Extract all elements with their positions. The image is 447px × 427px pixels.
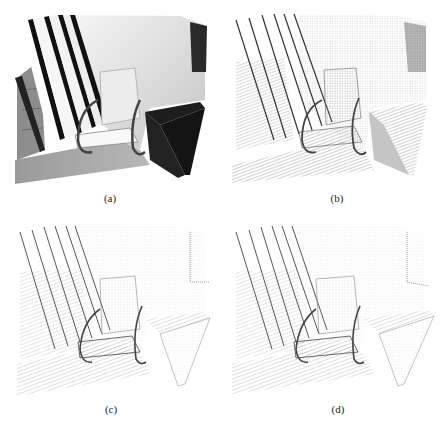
panel-c: (c)	[0, 214, 223, 427]
scene-render-a	[0, 0, 223, 213]
panel-d: (d)	[224, 214, 447, 427]
scene-render-d	[224, 214, 447, 427]
caption-a: (a)	[80, 192, 140, 204]
caption-b: (b)	[307, 192, 367, 204]
panel-b: (b)	[224, 0, 447, 213]
caption-c: (c)	[81, 403, 141, 415]
scene-render-c	[0, 214, 223, 427]
panel-a: (a)	[0, 0, 223, 213]
caption-d: (d)	[308, 403, 368, 415]
scene-render-b	[224, 0, 447, 213]
figure: (a)	[0, 0, 447, 427]
